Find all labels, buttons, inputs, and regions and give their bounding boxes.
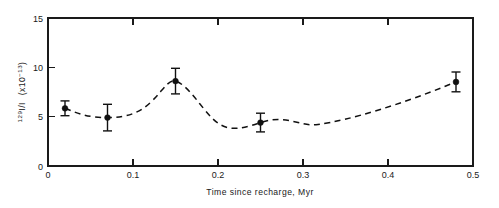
y-axis-title: 129I/I (x10−13) [16, 62, 28, 123]
x-ticklabel-0p3: 0.3 [297, 170, 310, 180]
y-ticklabel-5: 5 [38, 112, 43, 122]
chart-figure: 0 5 10 15 0 0.1 0.2 0.3 0.4 0.5 [0, 0, 499, 208]
axes-frame [48, 18, 473, 166]
data-series-errorbars [61, 68, 461, 132]
y-axis-title-group: 129I/I (x10−13) [16, 62, 28, 123]
x-ticklabel-0p4: 0.4 [382, 170, 395, 180]
scatter-plot-with-errorbars: 0 5 10 15 0 0.1 0.2 0.3 0.4 0.5 [0, 0, 499, 208]
y-axis-title-isotope: 129I/I [16, 99, 28, 122]
data-marker-4 [258, 120, 264, 126]
y-axis-title-units-open: (x10 [17, 77, 27, 96]
data-point-group-3 [171, 68, 180, 94]
data-point-group-5 [452, 72, 461, 92]
x-ticklabel-0p5: 0.5 [467, 170, 480, 180]
data-marker-5 [453, 79, 459, 85]
plot-border [48, 18, 473, 166]
y-axis-ticks [48, 18, 55, 166]
y-axis-tick-labels: 0 5 10 15 [33, 14, 43, 172]
x-axis-tick-labels: 0 0.1 0.2 0.3 0.4 0.5 [45, 170, 479, 180]
y-ticklabel-10: 10 [33, 63, 43, 73]
y-ticklabel-15: 15 [33, 14, 43, 24]
data-marker-1 [62, 105, 68, 111]
y-axis-title-units-close: ) [17, 62, 27, 65]
x-ticklabel-0: 0 [45, 170, 50, 180]
x-axis-ticks [48, 18, 473, 166]
data-marker-2 [105, 115, 111, 121]
y-axis-title-ratio: I/I [17, 102, 27, 111]
y-ticklabel-0: 0 [38, 162, 43, 172]
y-axis-title-superscript: 129 [16, 111, 23, 123]
data-point-group-1 [61, 101, 70, 116]
data-marker-3 [173, 78, 179, 84]
data-point-group-4 [256, 113, 265, 132]
y-axis-title-units-exp: −13 [16, 65, 23, 77]
x-ticklabel-0p2: 0.2 [212, 170, 225, 180]
x-ticklabel-0p1: 0.1 [127, 170, 140, 180]
x-axis-title: Time since recharge, Myr [206, 187, 313, 197]
